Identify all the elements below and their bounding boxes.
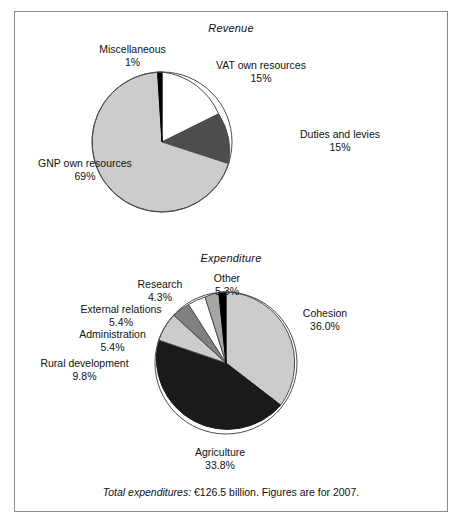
figure-caption: Total expenditures: €126.5 billion. Figu… — [15, 486, 447, 498]
expenditure-label-administration-name: Administration — [79, 328, 146, 340]
expenditure-label-agriculture-pct: 33.8% — [165, 459, 275, 472]
expenditure-label-external-relations: External relations 5.4% — [67, 303, 175, 328]
expenditure-label-research: Research 4.3% — [126, 278, 194, 303]
expenditure-label-administration: Administration 5.4% — [60, 328, 165, 353]
revenue-label-vat-name: VAT own resources — [216, 59, 306, 71]
revenue-label-duties-pct: 15% — [280, 141, 400, 154]
revenue-label-duties-name: Duties and levies — [300, 128, 380, 140]
figure-frame: Revenue Miscellaneous 1% VAT own resourc… — [14, 11, 448, 512]
expenditure-label-cohesion-name: Cohesion — [303, 307, 347, 319]
expenditure-label-research-name: Research — [138, 278, 183, 290]
revenue-label-vat: VAT own resources 15% — [191, 59, 331, 84]
caption-emphasis: Total expenditures: — [103, 486, 191, 498]
expenditure-label-cohesion: Cohesion 36.0% — [280, 307, 370, 332]
expenditure-label-research-pct: 4.3% — [126, 291, 194, 304]
expenditure-label-rural-development: Rural development 9.8% — [27, 357, 142, 382]
expenditure-label-other-pct: 5.3% — [198, 285, 256, 298]
revenue-panel-title: Revenue — [15, 22, 447, 34]
revenue-label-gnp-pct: 69% — [23, 170, 147, 183]
expenditure-label-agriculture-name: Agriculture — [195, 446, 245, 458]
expenditure-panel-title: Expenditure — [15, 252, 447, 264]
revenue-label-gnp: GNP own resources 69% — [23, 157, 147, 182]
revenue-label-miscellaneous: Miscellaneous 1% — [60, 43, 205, 68]
expenditure-label-rural-development-name: Rural development — [40, 357, 128, 369]
caption-rest: €126.5 billion. Figures are for 2007. — [191, 486, 359, 498]
revenue-pie-chart — [87, 67, 237, 217]
revenue-label-duties: Duties and levies 15% — [280, 128, 400, 153]
expenditure-label-external-relations-name: External relations — [80, 303, 161, 315]
expenditure-label-administration-pct: 5.4% — [60, 341, 165, 354]
expenditure-label-other-name: Other — [214, 272, 240, 284]
expenditure-label-cohesion-pct: 36.0% — [280, 320, 370, 333]
expenditure-label-agriculture: Agriculture 33.8% — [165, 446, 275, 471]
expenditure-label-external-relations-pct: 5.4% — [67, 316, 175, 329]
expenditure-label-other: Other 5.3% — [198, 272, 256, 297]
revenue-label-miscellaneous-pct: 1% — [60, 56, 205, 69]
revenue-label-miscellaneous-name: Miscellaneous — [99, 43, 166, 55]
revenue-label-vat-pct: 15% — [191, 72, 331, 85]
expenditure-label-rural-development-pct: 9.8% — [27, 370, 142, 383]
revenue-label-gnp-name: GNP own resources — [38, 157, 132, 169]
